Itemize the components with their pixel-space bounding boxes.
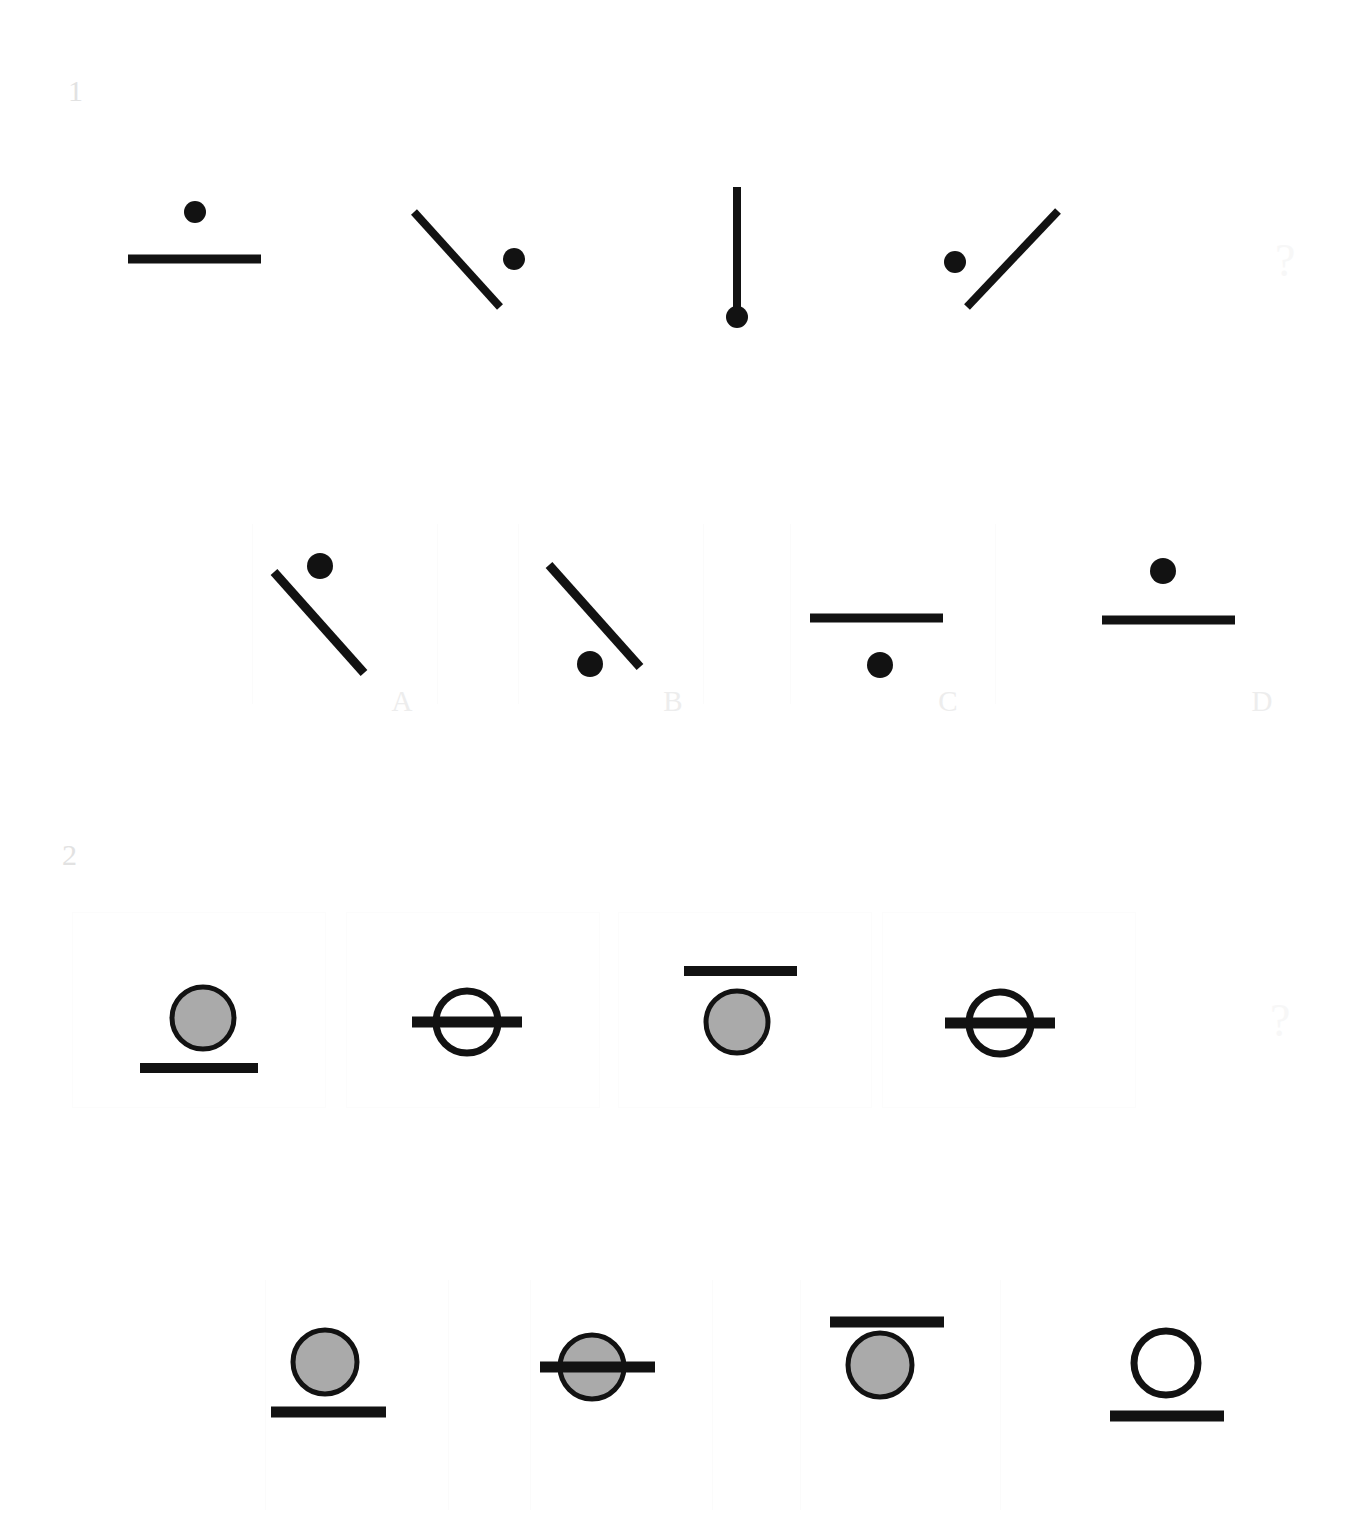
puzzle-2-option-C[interactable] (805, 1298, 985, 1448)
puzzle-1-option-B-label: B (653, 687, 693, 716)
stem-item-2-2[interactable] (390, 960, 570, 1100)
stem-item-2-1[interactable] (120, 960, 300, 1100)
puzzle-1-option-D[interactable] (1082, 530, 1272, 690)
puzzle-2-option-D[interactable] (1085, 1305, 1265, 1450)
puzzle-1-option-A[interactable] (250, 530, 440, 690)
option-divider (800, 1280, 801, 1510)
puzzle-1-option-C[interactable] (790, 530, 980, 690)
stem-item-1-1[interactable] (100, 170, 300, 340)
puzzle-1-option-D-label: D (1242, 687, 1282, 716)
stem-item-1-4[interactable] (930, 170, 1130, 340)
stem-item-2-4[interactable] (925, 960, 1105, 1100)
puzzle-2-question-mark: ? (1270, 998, 1290, 1044)
puzzle-2-option-A[interactable] (250, 1305, 430, 1445)
puzzle-1-question-mark: ? (1275, 238, 1295, 284)
puzzle-2-option-B[interactable] (520, 1305, 700, 1445)
stem-item-2-3[interactable] (660, 955, 840, 1100)
option-divider (518, 524, 519, 704)
puzzle-index-2: 2 (62, 840, 77, 870)
option-divider (712, 1280, 713, 1510)
puzzle-1: 1 ? (0, 0, 1361, 780)
option-divider (1000, 1280, 1001, 1510)
puzzle-1-option-B[interactable] (520, 530, 710, 690)
puzzle-index-1: 1 (68, 76, 83, 106)
puzzle-1-option-A-label: A (382, 687, 422, 716)
option-divider (995, 524, 996, 704)
stem-item-1-2[interactable] (390, 170, 590, 340)
stem-item-1-3[interactable] (660, 170, 860, 350)
puzzle-1-option-C-label: C (928, 687, 968, 716)
option-divider (448, 1280, 449, 1510)
puzzle-2: 2 (0, 780, 1361, 1539)
